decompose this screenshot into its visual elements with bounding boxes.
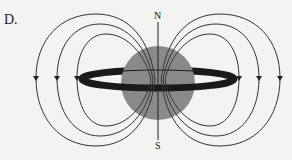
arrow-down-icon [54, 76, 60, 81]
arrow-down-icon [256, 76, 262, 81]
north-pole-label: N [154, 10, 161, 21]
arrow-down-icon [33, 76, 39, 81]
magnetic-field-diagram [0, 0, 292, 160]
arrow-down-icon [277, 76, 283, 81]
south-pole-label: S [155, 140, 161, 151]
